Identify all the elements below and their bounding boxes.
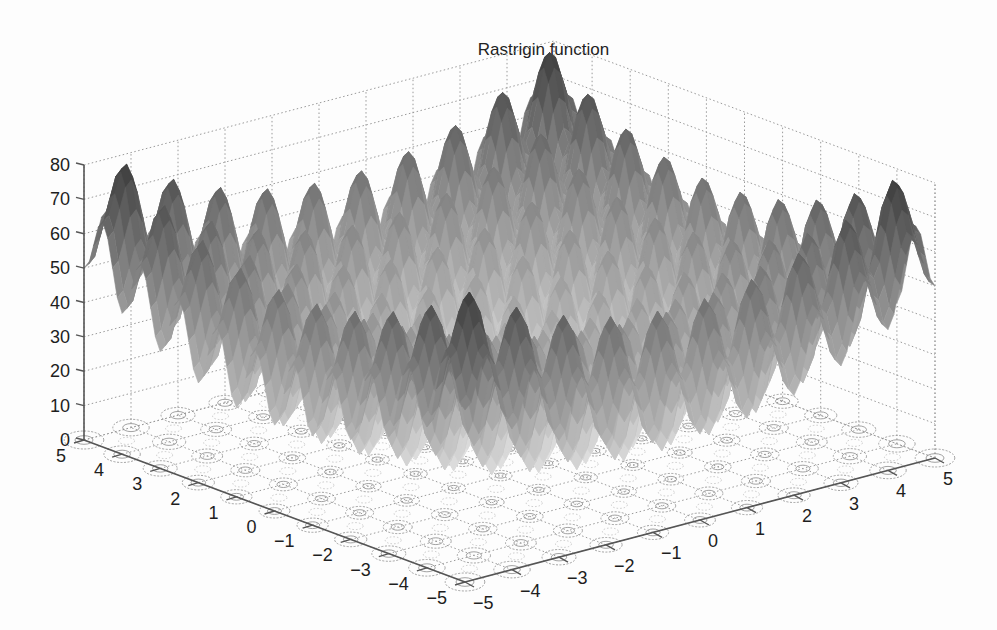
y-tick-label: −5 <box>426 588 447 608</box>
surface-plot: 01020304050607080543210−1−2−3−4−5−5−4−3−… <box>0 0 997 630</box>
x-tick-label: −1 <box>661 543 682 563</box>
x-tick-label: 3 <box>849 494 859 514</box>
z-tick-label: 60 <box>50 224 70 244</box>
z-tick-label: 20 <box>50 361 70 381</box>
x-tick-label: −4 <box>520 581 541 601</box>
y-tick-label: −2 <box>312 545 333 565</box>
x-tick-label: 1 <box>755 519 765 539</box>
y-tick-label: 3 <box>132 474 142 494</box>
x-tick-label: −5 <box>473 593 494 613</box>
x-tick-label: 5 <box>943 469 953 489</box>
y-tick-label: −3 <box>350 560 371 580</box>
y-tick-label: 1 <box>208 503 218 523</box>
z-tick-label: 70 <box>50 189 70 209</box>
z-tick-label: 10 <box>50 396 70 416</box>
z-tick-label: 50 <box>50 258 70 278</box>
y-tick-label: 5 <box>56 446 66 466</box>
y-tick-label: 4 <box>94 460 104 480</box>
y-tick-label: −4 <box>388 574 409 594</box>
z-tick-label: 40 <box>50 293 70 313</box>
z-tick-label: 80 <box>50 155 70 175</box>
x-tick-label: −2 <box>614 556 635 576</box>
y-tick-label: 0 <box>246 517 256 537</box>
figure: Rastrigin function 010203040506070805432… <box>0 0 997 630</box>
x-tick-label: 2 <box>802 506 812 526</box>
x-tick-label: −3 <box>567 568 588 588</box>
x-tick-label: 4 <box>896 481 906 501</box>
y-tick-label: 2 <box>170 489 180 509</box>
z-tick-label: 30 <box>50 327 70 347</box>
y-tick-label: −1 <box>274 531 295 551</box>
x-tick-label: 0 <box>708 531 718 551</box>
